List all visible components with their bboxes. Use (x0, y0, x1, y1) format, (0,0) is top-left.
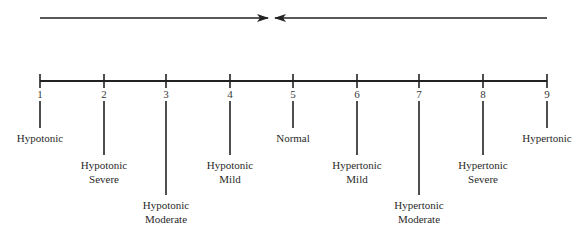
tick-label-line: Mild (207, 172, 253, 186)
tick-label: HypotonicModerate (143, 198, 189, 226)
tick-label-line: Hypotonic (17, 131, 63, 145)
tick-number: 6 (354, 88, 360, 100)
tick-label-line: Hypotonic (207, 158, 253, 172)
tick-label: Hypotonic (17, 131, 63, 145)
tick-label-line: Moderate (394, 212, 443, 226)
tick-number: 8 (480, 88, 486, 100)
tick-label-line: Hypotonic (81, 158, 127, 172)
tick-label: Hypertonic (522, 131, 571, 145)
tick-number: 9 (544, 88, 550, 100)
tick-number: 4 (227, 88, 233, 100)
tick-label-line: Normal (276, 131, 310, 145)
tick-label: HypotonicSevere (81, 158, 127, 186)
tick-label-line: Moderate (143, 212, 189, 226)
tick-label: Normal (276, 131, 310, 145)
tick-number: 3 (163, 88, 169, 100)
tick-label-line: Severe (458, 172, 507, 186)
tick-label: HypotonicMild (207, 158, 253, 186)
tick-label-line: Hypertonic (522, 131, 571, 145)
tick-label-line: Mild (332, 172, 381, 186)
tick-label-line: Severe (81, 172, 127, 186)
tick-label-line: Hypertonic (332, 158, 381, 172)
tick-number: 1 (37, 88, 43, 100)
tick-number: 2 (101, 88, 107, 100)
tick-label: HypertonicModerate (394, 198, 443, 226)
tick-label: HypertonicSevere (458, 158, 507, 186)
tick-label-line: Hypertonic (394, 198, 443, 212)
tick-label-line: Hypertonic (458, 158, 507, 172)
tick-label-line: Hypotonic (143, 198, 189, 212)
tonicity-scale-diagram (0, 0, 586, 230)
tick-number: 7 (416, 88, 422, 100)
tick-number: 5 (290, 88, 296, 100)
tick-label: HypertonicMild (332, 158, 381, 186)
